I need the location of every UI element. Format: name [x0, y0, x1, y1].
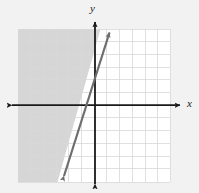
y-axis-label: y: [90, 3, 95, 14]
x-axis-label: x: [187, 98, 192, 109]
coordinate-plane-figure: x y: [0, 0, 199, 193]
graph-canvas: [0, 0, 199, 193]
